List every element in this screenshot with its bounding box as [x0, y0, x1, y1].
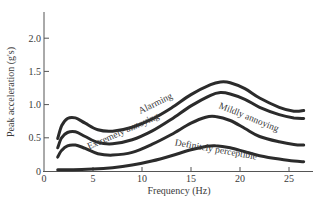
x-tick-label: 15: [186, 173, 196, 184]
x-tick-label: 20: [235, 173, 245, 184]
y-ticks: 00.51.01.52.0: [29, 33, 50, 177]
vibration-perception-chart: 0510152025 00.51.01.52.0 AlarmingExtreme…: [0, 0, 327, 202]
x-tick-label: 25: [284, 173, 294, 184]
y-tick-label: 1.0: [29, 99, 42, 110]
x-tick-label: 10: [137, 173, 147, 184]
y-tick-label: 1.5: [29, 66, 42, 77]
y-axis-title: Peak acceleration (g's): [5, 47, 17, 137]
y-tick-label: 0.5: [29, 132, 42, 143]
curve-definitely-perceptible: [58, 146, 304, 170]
x-axis-title: Frequency (Hz): [147, 185, 210, 197]
x-tick-label: 5: [91, 173, 96, 184]
x-tick-label: 0: [42, 173, 47, 184]
label-mildly-annoying: Mildly annoying: [218, 101, 281, 134]
y-tick-label: 2.0: [29, 33, 42, 44]
y-tick-label: 0: [36, 166, 41, 177]
